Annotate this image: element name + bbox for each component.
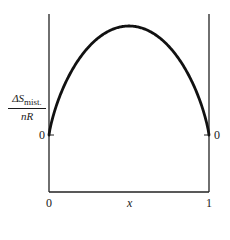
y-axis-label: ΔSmist. nR	[8, 92, 46, 122]
y-tick-right-0: 0	[214, 129, 220, 141]
x-tick-0: 0	[46, 197, 52, 209]
y-label-denominator: nR	[8, 109, 46, 122]
y-label-numerator: ΔSmist.	[8, 92, 46, 109]
y-tick-left-0: 0	[39, 129, 45, 141]
x-axis-label: x	[127, 197, 132, 209]
x-tick-1: 1	[206, 197, 212, 209]
entropy-curve	[49, 26, 209, 135]
